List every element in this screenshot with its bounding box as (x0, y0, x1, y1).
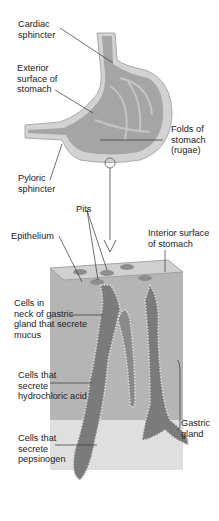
label-hcl-cells: Cells that secrete hydrochloric acid (18, 370, 87, 402)
label-folds-rugae: Folds of stomach (rugae) (171, 124, 206, 156)
label-pits: Pits (76, 204, 91, 215)
label-pyloric-sphincter: Pyloric sphincter (18, 173, 55, 194)
label-epithelium: Epithelium (11, 231, 54, 242)
label-interior-surface: Interior surface of stomach (148, 228, 209, 249)
label-pepsinogen-cells: Cells that secrete pepsinogen (18, 433, 66, 465)
label-exterior-surface: Exterior surface of stomach (17, 63, 57, 95)
label-cardiac-sphincter: Cardiac sphincter (18, 19, 55, 40)
label-gastric-gland: Gastric gland (181, 418, 210, 439)
label-neck-cells: Cells in neck of gastric gland that secr… (14, 298, 87, 340)
